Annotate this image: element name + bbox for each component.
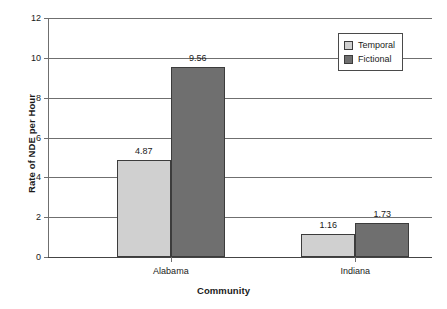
legend-label-temporal: Temporal [358,41,395,50]
bar-indiana-temporal [301,234,355,257]
y-tick-label: 0 [36,252,41,262]
x-tick-alabama [171,257,172,262]
y-tick-label: 6 [36,133,41,143]
gridline-12 [48,18,432,19]
y-tick-label: 8 [36,93,41,103]
y-tick-label: 4 [36,172,41,182]
gridline-8 [48,98,432,99]
x-category-label: Alabama [153,266,189,276]
bar-value-label: 4.87 [135,146,153,156]
bar-value-label: 1.16 [319,220,337,230]
y-tick-label: 2 [36,212,41,222]
x-tick-indiana [355,257,356,262]
bar-value-label: 1.73 [373,209,391,219]
y-tick-12 [44,18,48,19]
y-tick-2 [44,217,48,218]
legend-item-temporal: Temporal [344,38,395,52]
gridline-6 [48,138,432,139]
x-category-label: Indiana [340,266,370,276]
y-tick-8 [44,98,48,99]
gridline-4 [48,177,432,178]
legend-swatch-temporal-icon [344,41,353,50]
y-tick-label: 10 [31,53,41,63]
y-axis-title: Rate of NDE per Hour [26,64,37,224]
chart-legend: Temporal Fictional [338,33,403,71]
bar-chart: Rate of NDE per Hour 0246810124.879.56Al… [0,0,447,309]
legend-label-fictional: Fictional [358,55,392,64]
bar-value-label: 9.56 [189,53,207,63]
legend-swatch-fictional-icon [344,55,353,64]
bar-indiana-fictional [355,223,409,257]
bar-alabama-temporal [117,160,171,257]
y-tick-10 [44,58,48,59]
x-axis-title: Community [0,285,447,296]
y-tick-0 [44,257,48,258]
y-tick-label: 12 [31,13,41,23]
y-tick-4 [44,177,48,178]
y-tick-6 [44,138,48,139]
gridline-0 [48,257,432,258]
bar-alabama-fictional [171,67,225,257]
legend-item-fictional: Fictional [344,52,395,66]
